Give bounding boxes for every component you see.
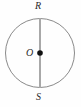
geometry-figure: R O S xyxy=(0,0,81,107)
point-label-O: O xyxy=(26,48,33,58)
point-label-R: R xyxy=(35,1,41,11)
center-point-dot xyxy=(37,50,43,56)
point-label-S: S xyxy=(36,92,41,102)
